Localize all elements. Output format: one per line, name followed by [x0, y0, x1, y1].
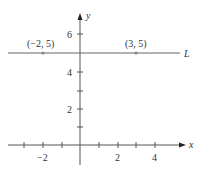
point-neg2-5-label: (−2, 5): [27, 38, 54, 50]
chart-canvas: x y −2 2 4 6 4 2 L (−2, 5) (3, 5): [0, 0, 203, 174]
y-axis-arrow-icon: [78, 13, 83, 20]
x-tick-label-2: 2: [115, 152, 120, 163]
point-neg2-5: [41, 51, 44, 54]
y-tick-label-2: 2: [67, 104, 72, 115]
y-tick-label-4: 4: [67, 67, 72, 78]
x-axis-arrow-icon: [179, 143, 186, 148]
line-L-label: L: [183, 48, 190, 59]
point-3-5: [134, 51, 137, 54]
y-tick-label-6: 6: [67, 29, 72, 40]
y-axis-label: y: [85, 10, 91, 21]
x-tick-label-4: 4: [152, 152, 157, 163]
x-tick-label-neg2: −2: [37, 152, 48, 163]
point-3-5-label: (3, 5): [125, 38, 147, 50]
x-axis-label: x: [188, 139, 194, 150]
